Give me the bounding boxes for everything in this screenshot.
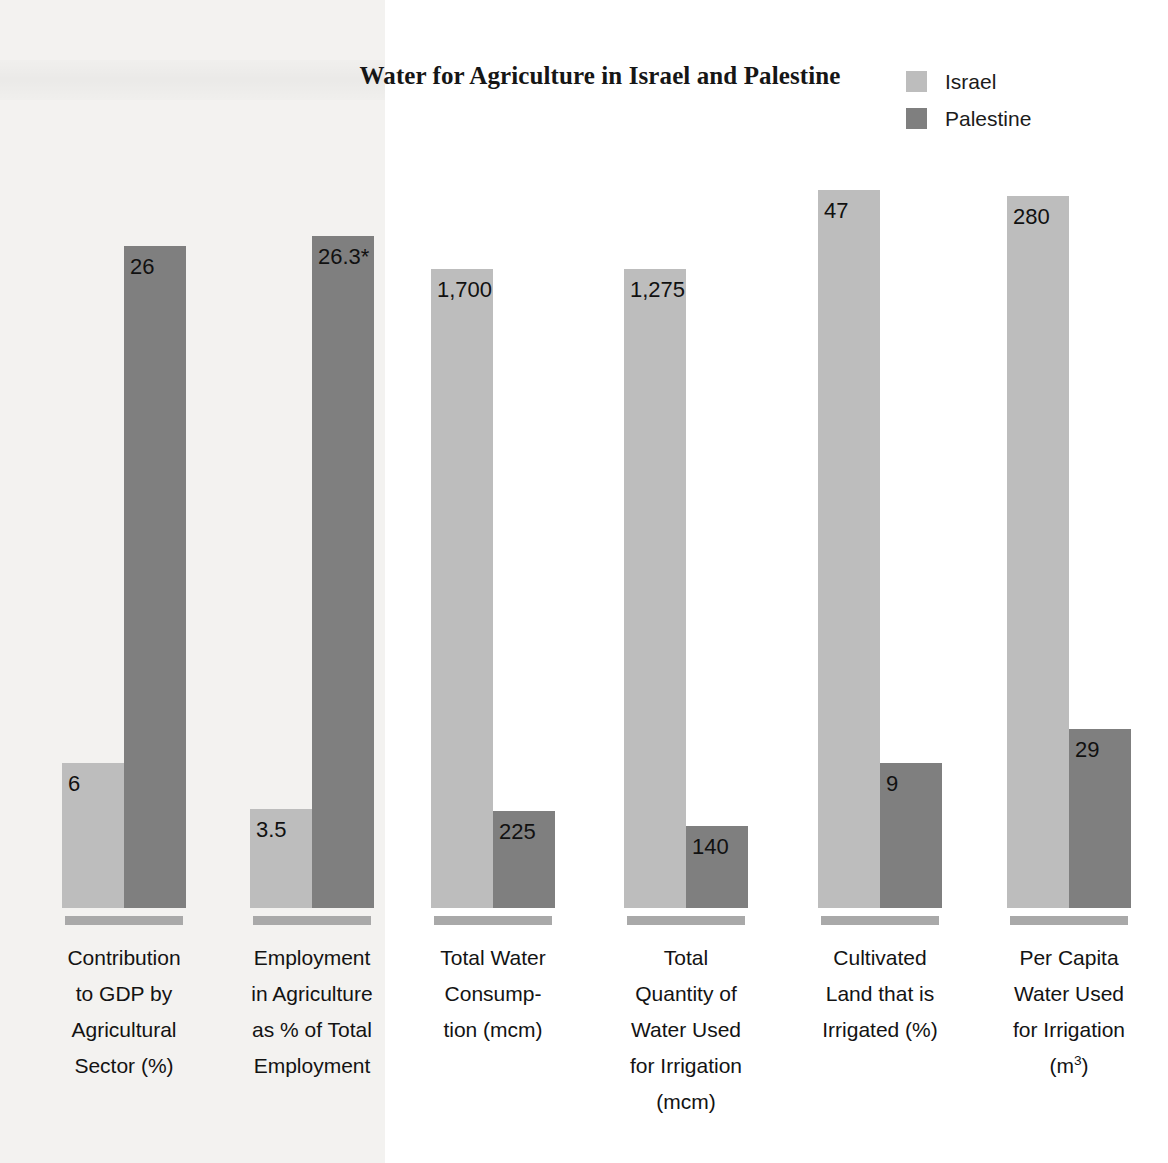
axis-tick-agriculture-employment	[253, 916, 371, 925]
bar-value-per-capita-water-irrigation-palestine: 29	[1075, 739, 1099, 761]
chart-figure: Water for Agriculture in Israel and Pale…	[0, 0, 1168, 1163]
bar-value-total-water-consumption-israel: 1,700	[437, 279, 492, 301]
bar-value-water-used-irrigation-israel: 1,275	[630, 279, 685, 301]
bar-value-total-water-consumption-palestine: 225	[499, 821, 536, 843]
axis-tick-cultivated-land-irrigated	[821, 916, 939, 925]
category-label-cultivated-land-irrigated: CultivatedLand that isIrrigated (%)	[790, 940, 970, 1048]
bar-water-used-irrigation-israel[interactable]	[624, 269, 686, 908]
bar-gdp-contribution-palestine[interactable]	[124, 246, 186, 908]
axis-tick-total-water-consumption	[434, 916, 552, 925]
axis-tick-water-used-irrigation	[627, 916, 745, 925]
category-label-per-capita-water-irrigation: Per CapitaWater Usedfor Irrigation(m3)	[979, 940, 1159, 1084]
bar-per-capita-water-irrigation-israel[interactable]	[1007, 196, 1069, 908]
bar-value-gdp-contribution-palestine: 26	[130, 256, 154, 278]
category-label-agriculture-employment: Employmentin Agricultureas % of TotalEmp…	[222, 940, 402, 1084]
bar-value-water-used-irrigation-palestine: 140	[692, 836, 729, 858]
axis-tick-per-capita-water-irrigation	[1010, 916, 1128, 925]
category-label-total-water-consumption: Total WaterConsump-tion (mcm)	[403, 940, 583, 1048]
bar-value-per-capita-water-irrigation-israel: 280	[1013, 206, 1050, 228]
bar-cultivated-land-irrigated-israel[interactable]	[818, 190, 880, 908]
bar-value-agriculture-employment-israel: 3.5	[256, 819, 287, 841]
bar-agriculture-employment-palestine[interactable]	[312, 236, 374, 908]
bar-value-cultivated-land-irrigated-palestine: 9	[886, 773, 898, 795]
plot-area: 626Contributionto GDP byAgriculturalSect…	[0, 0, 1168, 1163]
category-label-water-used-irrigation: TotalQuantity ofWater Usedfor Irrigation…	[596, 940, 776, 1120]
bar-total-water-consumption-israel[interactable]	[431, 269, 493, 908]
bar-value-gdp-contribution-israel: 6	[68, 773, 80, 795]
bar-value-agriculture-employment-palestine: 26.3*	[318, 246, 369, 268]
category-label-gdp-contribution: Contributionto GDP byAgriculturalSector …	[34, 940, 214, 1084]
bar-value-cultivated-land-irrigated-israel: 47	[824, 200, 848, 222]
axis-tick-gdp-contribution	[65, 916, 183, 925]
